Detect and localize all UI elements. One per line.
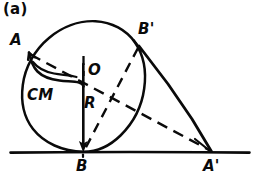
label-point-b-prime: B' (138, 22, 154, 37)
label-point-b: B (76, 159, 88, 174)
label-radius: R (84, 96, 96, 111)
panel-label: (a) (3, 2, 27, 17)
label-center-of-mass: CM (27, 88, 53, 103)
label-point-a: A (10, 33, 22, 48)
line-bprime-to-aprime (139, 46, 212, 152)
label-center-o: O (88, 63, 101, 78)
label-point-a-prime: A' (203, 159, 220, 174)
ground-line (11, 152, 250, 153)
figure-container: (a) A B' O CM R B A' (0, 0, 259, 188)
